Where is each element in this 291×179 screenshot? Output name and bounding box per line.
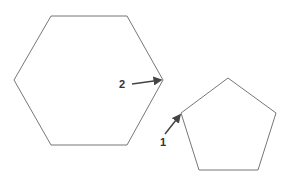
pentagon-shape (181, 78, 276, 170)
diagram-canvas: 2 1 (0, 0, 291, 179)
arrow-2 (132, 80, 161, 84)
hexagon-shape (14, 16, 163, 145)
label-1: 1 (160, 136, 166, 148)
label-2: 2 (119, 78, 125, 90)
arrow-1 (165, 115, 180, 134)
